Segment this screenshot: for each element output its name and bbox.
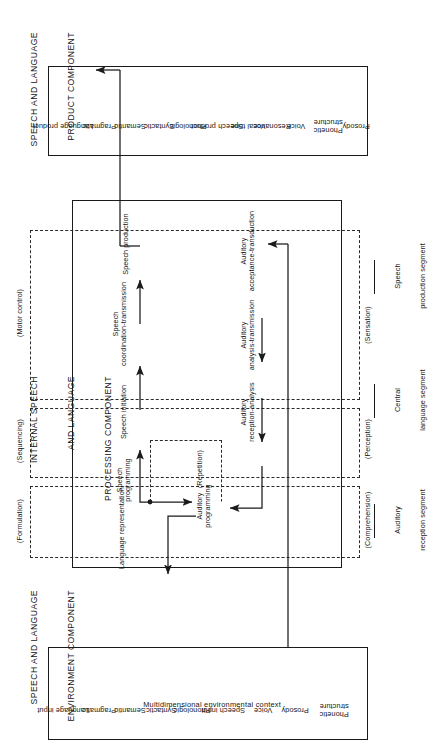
env-context-label: Multidimensional environmental context (117, 701, 307, 709)
node-speech-production: Speech production (122, 186, 130, 302)
segment-central-line1: Central (394, 352, 402, 448)
segment-speech-line1: Speech (394, 226, 402, 326)
stage-box-sensation-motorcontrol (30, 230, 360, 400)
segment-label-speech: Speech production segment (378, 226, 432, 326)
node-auditory-acceptance-transduction: Auditory acceptance-transduction (240, 184, 256, 318)
segment-auditory-line2: reception segment (419, 472, 427, 568)
segment-label-auditory: Auditory reception segment (378, 472, 432, 568)
stage-label-comprehension: (Comprehension) (364, 472, 372, 568)
segment-rule-central (374, 384, 375, 418)
segment-label-central: Central language segment (378, 352, 432, 448)
segment-speech-line2: production segment (419, 226, 427, 326)
segment-auditory-line1: Auditory (394, 472, 402, 568)
section-heading-environment-line1: SPEECH AND LANGUAGE (28, 590, 40, 742)
segment-rule-speech (374, 260, 375, 294)
node-auditory-programming: Auditory programming (196, 464, 212, 548)
segment-central-line2: language segment (419, 352, 427, 448)
stage-label-perception: (Perception) (364, 396, 372, 482)
stage-label-sensation: (Sensation) (364, 282, 372, 368)
stage-label-formulation: (Formulation) (16, 478, 24, 564)
segment-rule-auditory (374, 504, 375, 538)
stage-label-motor-control: (Motor control) (16, 264, 24, 362)
product-component-box (48, 66, 368, 156)
section-heading-product-line1: SPEECH AND LANGUAGE (28, 32, 40, 184)
stage-label-sequencing: (Sequencing) (16, 398, 24, 484)
product-item-10: Prosody (306, 122, 406, 130)
environment-component-box (48, 647, 368, 740)
